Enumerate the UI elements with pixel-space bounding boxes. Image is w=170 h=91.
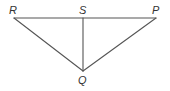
label-r: R (9, 4, 17, 16)
edges (14, 18, 156, 71)
label-s: S (79, 4, 87, 16)
vertex-labels: R S P Q (9, 4, 160, 86)
segment-pq (83, 18, 156, 71)
label-q: Q (78, 74, 87, 86)
triangle-diagram: R S P Q (0, 0, 170, 91)
segment-rq (14, 18, 83, 71)
label-p: P (152, 4, 160, 16)
